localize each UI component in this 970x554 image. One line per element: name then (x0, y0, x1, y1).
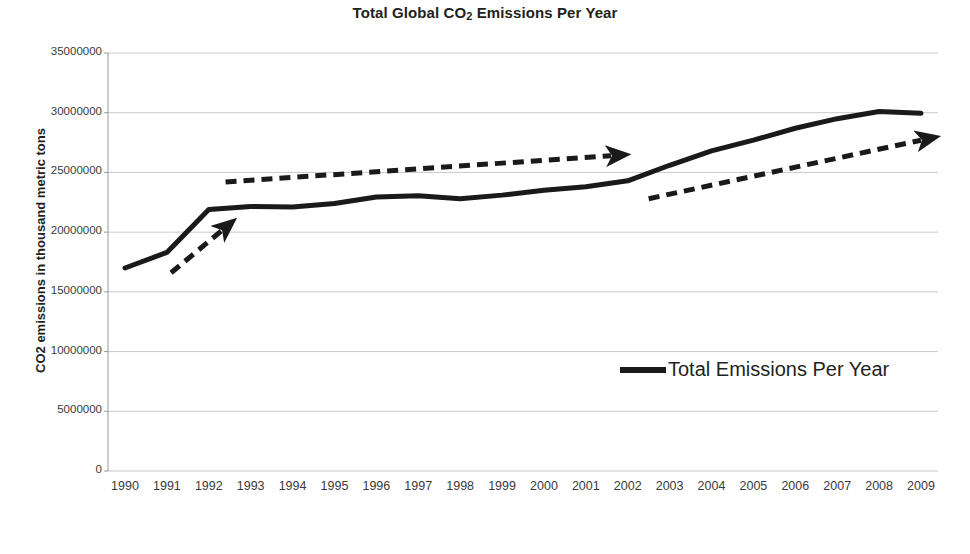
series-line (125, 112, 921, 268)
legend: Total Emissions Per Year (620, 358, 889, 381)
data-series (125, 112, 921, 268)
legend-item-label: Total Emissions Per Year (668, 358, 889, 381)
gridlines (108, 53, 938, 471)
chart-container: Total Global CO2 Emissions Per Year CO2 … (0, 0, 970, 554)
plot-area (0, 0, 970, 554)
legend-line-swatch (620, 367, 666, 373)
axis-lines (104, 53, 108, 471)
trend-arrow-2002-2009 (649, 140, 921, 199)
trend-arrow-1992-2002 (226, 156, 611, 182)
